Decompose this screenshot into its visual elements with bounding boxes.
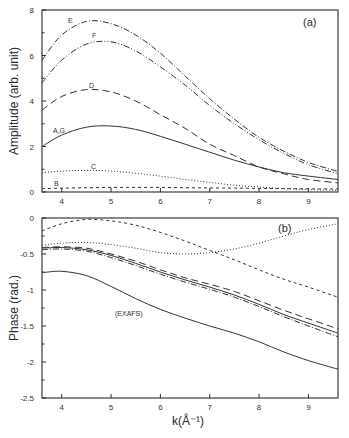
y-tick-label: -1: [27, 286, 35, 295]
panel-b-ylabel: Phase (rad.): [7, 275, 21, 341]
panel-b-curves: [42, 219, 338, 369]
y-tick-label: 8: [30, 6, 35, 15]
y-tick-label: 0: [30, 214, 35, 223]
curve-f: [42, 41, 338, 174]
curve-e: [42, 21, 338, 172]
y-tick-label: 2: [30, 143, 35, 152]
y-tick-label: -2.5: [20, 394, 34, 403]
panel-b-frame: [42, 218, 338, 398]
y-tick-label: -1.5: [20, 322, 34, 331]
curve-label-e: E: [68, 17, 73, 24]
curve-label-exafs: (EXAFS): [115, 310, 143, 318]
x-tick-label: 9: [306, 403, 311, 412]
curve-d: [42, 89, 338, 183]
curve-label-d: D: [89, 82, 94, 89]
x-tick-label: 5: [109, 197, 114, 206]
y-tick-label: 0: [30, 188, 35, 197]
curve-label-c: C: [91, 163, 96, 170]
curve-short-dashed: [42, 219, 338, 297]
panel-a-label: (a): [303, 16, 316, 28]
x-tick-label: 8: [257, 403, 262, 412]
curve-solid: [42, 247, 338, 333]
y-tick-label: -2: [27, 358, 35, 367]
y-tick-label: 4: [30, 97, 35, 106]
panel-a-amplitude: 45678902468 Amplitude (arb. unit) (a) E …: [7, 6, 338, 206]
curve-dashed: [42, 247, 338, 329]
curve-dash-dot: [42, 249, 338, 337]
panel-a-curves: [42, 21, 338, 191]
curve-exafs: [42, 271, 338, 369]
y-tick-label: 6: [30, 52, 35, 61]
panel-b-phase: 4567890-0.5-1-1.5-2-2.5 Phase (rad.) (b)…: [7, 214, 338, 412]
curve-label-b: B: [54, 180, 59, 187]
chart-canvas: 45678902468 Amplitude (arb. unit) (a) E …: [0, 0, 349, 438]
panel-a-frame: [42, 10, 338, 192]
x-tick-label: 5: [109, 403, 114, 412]
x-tick-label: 9: [306, 197, 311, 206]
x-tick-label: 7: [208, 403, 213, 412]
curve-a-g: [42, 126, 338, 180]
x-tick-label: 4: [60, 403, 65, 412]
panel-a-ticks: 45678902468: [30, 6, 312, 206]
exafs-figure: 45678902468 Amplitude (arb. unit) (a) E …: [0, 0, 349, 438]
panel-b-ticks: 4567890-0.5-1-1.5-2-2.5: [20, 214, 311, 412]
panel-a-ylabel: Amplitude (arb. unit): [7, 47, 21, 155]
x-tick-label: 7: [208, 197, 213, 206]
x-tick-label: 6: [158, 403, 163, 412]
curve-label-f: F: [92, 32, 96, 39]
curve-label-ag: A,G: [53, 127, 65, 134]
x-axis-title: k(Å⁻¹): [172, 413, 204, 428]
x-tick-label: 8: [257, 197, 262, 206]
x-tick-label: 4: [60, 197, 65, 206]
x-tick-label: 6: [158, 197, 163, 206]
y-tick-label: -0.5: [20, 250, 34, 259]
panel-b-label: (b): [278, 222, 291, 234]
